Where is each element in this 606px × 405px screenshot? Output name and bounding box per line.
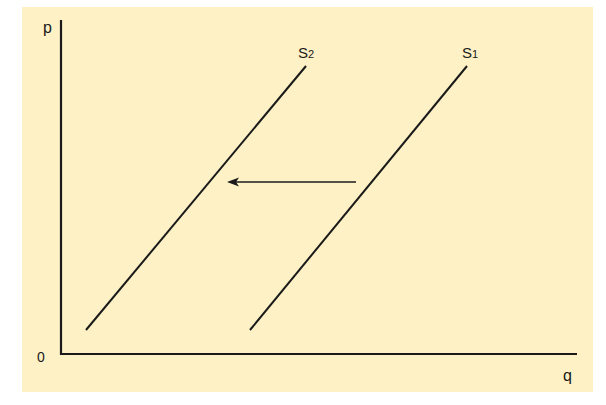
curve-label-s1-sub: 1 xyxy=(472,48,478,60)
origin-label: 0 xyxy=(37,350,45,364)
supply-curve-s2 xyxy=(86,66,306,330)
curve-label-s2: S2 xyxy=(298,45,314,60)
curve-label-s1: S1 xyxy=(462,45,478,60)
supply-curve-s1 xyxy=(250,66,467,330)
curve-label-s2-sub: 2 xyxy=(308,48,314,60)
x-axis-label: q xyxy=(563,368,572,384)
curve-label-s1-main: S xyxy=(462,44,472,61)
shift-arrow xyxy=(227,178,356,187)
y-axis-label: p xyxy=(43,20,52,36)
curve-label-s2-main: S xyxy=(298,44,308,61)
